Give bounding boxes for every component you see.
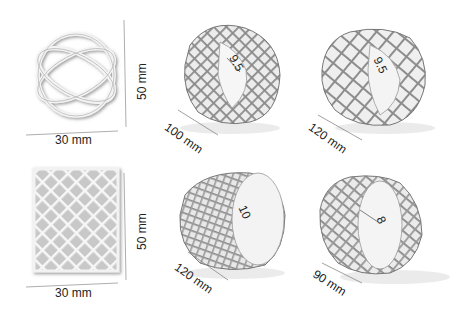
rolled-lattice-drawing [150, 155, 310, 315]
rolled-tube-90mm: 8 90 mm [300, 155, 475, 315]
width-label: 30 mm [55, 286, 92, 300]
height-label: 50 mm [135, 63, 149, 100]
height-label: 50 mm [135, 213, 149, 250]
rolled-tube-120mm-dense: 10 120 mm [150, 155, 310, 315]
rolled-lattice-drawing [300, 155, 475, 315]
flat-pattern-dense: 30 mm 50 mm [0, 155, 160, 315]
rolled-tube-100mm: 9.5 100 mm [150, 0, 310, 155]
flat-pattern-sparse: 30 mm 50 mm [0, 0, 160, 155]
rolled-tube-120mm-sparse: 9.5 120 mm [300, 0, 475, 155]
width-label: 30 mm [55, 133, 92, 147]
